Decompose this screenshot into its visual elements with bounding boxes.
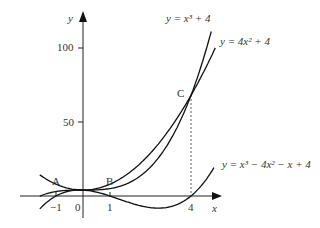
- point-label-c: C: [177, 87, 184, 99]
- x-axis-label: x: [211, 202, 217, 214]
- point-label-b: B: [106, 175, 113, 187]
- y-axis-arrow-icon: [79, 11, 87, 22]
- curve-label-2: y = 4x² + 4: [219, 35, 270, 47]
- point-label-a: A: [52, 175, 60, 187]
- x-axis-arrow-icon: [212, 192, 222, 200]
- tick-label-4: 4: [188, 201, 194, 213]
- tick-label-1: 1: [107, 201, 113, 213]
- tick-label-neg1: −1: [50, 201, 62, 213]
- graph-diagram: y x 100 50 −1 0 1 4 A B C y = x³ + 4 y =…: [0, 0, 320, 228]
- tick-label-100: 100: [57, 41, 74, 53]
- curve-x-cubed-plus-4: [40, 32, 212, 197]
- tick-label-50: 50: [63, 116, 75, 128]
- y-axis-label: y: [67, 12, 73, 24]
- curve-label-3: y = x³ − 4x² − x + 4: [221, 158, 311, 170]
- tick-label-0: 0: [75, 201, 81, 213]
- curve-label-1: y = x³ + 4: [165, 12, 211, 24]
